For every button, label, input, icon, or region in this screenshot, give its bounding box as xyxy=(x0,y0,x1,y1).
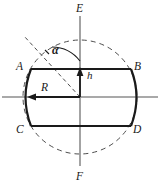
label-point-a: A xyxy=(16,61,23,73)
angle-tick-mark xyxy=(45,50,49,54)
geometry-figure: A B C D E F α h R xyxy=(0,0,160,192)
label-radius-r: R xyxy=(41,82,48,94)
label-point-d: D xyxy=(133,124,141,136)
label-point-e: E xyxy=(76,3,83,15)
r-vector-arrowhead xyxy=(27,93,36,100)
label-point-b: B xyxy=(134,61,141,73)
label-point-f: F xyxy=(76,171,83,183)
figure-canvas xyxy=(0,0,160,192)
label-height-h: h xyxy=(87,70,93,81)
label-point-c: C xyxy=(16,124,24,136)
label-angle-alpha: α xyxy=(52,44,59,56)
